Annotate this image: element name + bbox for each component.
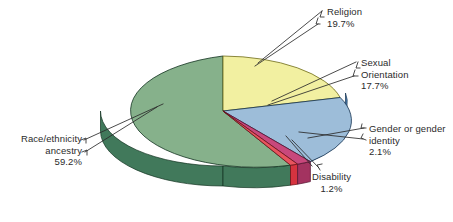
slice-label-race-ethnicity: Race/ethnicity ancestry 59.2% <box>4 133 82 168</box>
pie-top-surface <box>131 56 352 167</box>
slice-label-disability: Disability 1.2% <box>312 171 351 194</box>
slice-percent-gender-identity: 2.1% <box>369 146 446 158</box>
slice-label-race-ethnicity-line2: ancestry <box>4 145 82 157</box>
slice-percent-race-ethnicity: 59.2% <box>4 156 82 168</box>
slice-label-sexual-orientation-line1: Sexual <box>361 57 391 68</box>
leader-line-sexual-c <box>353 70 358 76</box>
slice-label-sexual-orientation-line2: Orientation <box>361 69 409 81</box>
slice-label-race-ethnicity-line1: Race/ethnicity <box>21 133 82 144</box>
pie-chart-figure: Religion 19.7% Sexual Orientation 17.7% … <box>0 0 453 222</box>
slice-label-gender-identity-line1: Gender or gender <box>369 123 446 134</box>
slice-label-sexual-orientation: Sexual Orientation 17.7% <box>361 57 409 92</box>
leader-line-religion-d <box>255 24 318 66</box>
leader-line-religion-c <box>316 18 320 24</box>
slice-side-race-right <box>223 165 291 188</box>
slice-side-disability <box>291 164 298 185</box>
slice-side-gender <box>298 162 311 185</box>
slice-percent-disability: 1.2% <box>312 183 351 195</box>
pie-chart-graphic <box>0 0 453 222</box>
slice-percent-sexual-orientation: 17.7% <box>361 80 409 92</box>
slice-percent-religion: 19.7% <box>327 18 362 30</box>
slice-label-disability-text: Disability <box>312 171 351 182</box>
slice-label-religion: Religion 19.7% <box>327 6 362 29</box>
slice-label-gender-identity: Gender or gender identity 2.1% <box>369 123 446 158</box>
leader-line-sexual-a <box>356 62 360 68</box>
slice-label-gender-identity-line2: identity <box>369 135 446 147</box>
leader-line-religion-b <box>258 11 322 63</box>
slice-label-religion-text: Religion <box>327 6 362 17</box>
leader-line-gender-a <box>361 124 366 128</box>
